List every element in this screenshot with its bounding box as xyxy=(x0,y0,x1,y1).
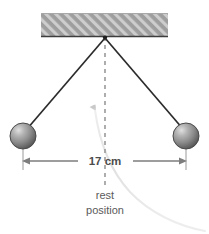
diagram-canvas: 17 cm rest position xyxy=(0,0,209,234)
left-pendulum-bob xyxy=(10,123,36,149)
right-pendulum-bob xyxy=(173,123,199,149)
dimension-line-group: 17 cm xyxy=(22,155,187,167)
pivot-point xyxy=(103,35,107,39)
ceiling-support xyxy=(41,13,168,37)
left-string xyxy=(27,38,105,129)
rest-caption-line1: rest xyxy=(96,189,114,201)
rest-position-caption: rest position xyxy=(86,189,124,216)
right-string xyxy=(105,38,183,129)
swing-arrow-head-icon xyxy=(90,104,96,110)
dimension-label: 17 cm xyxy=(89,155,122,167)
rest-caption-line2: position xyxy=(86,204,124,216)
pendulum-diagram: 17 cm rest position xyxy=(0,0,209,234)
ceiling-hatch-fill xyxy=(41,13,168,37)
pendulum-strings xyxy=(27,35,183,129)
